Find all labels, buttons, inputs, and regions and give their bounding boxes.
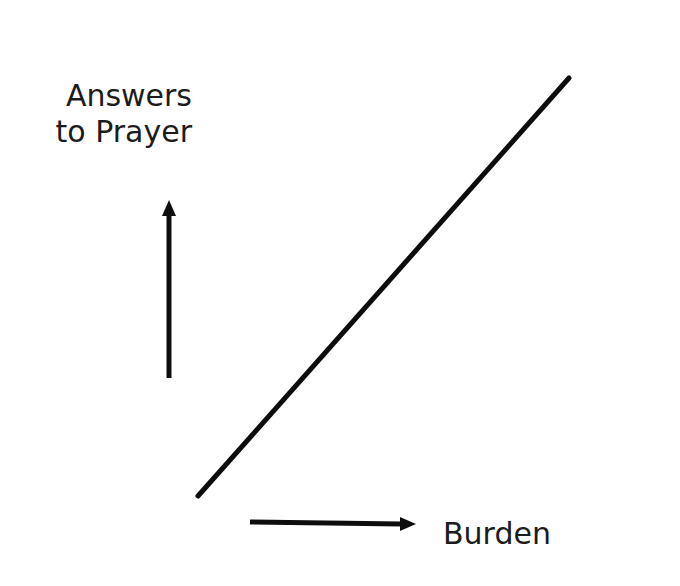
y-axis-label: Answers to Prayer: [56, 78, 192, 150]
direct-relationship-diagram: Answers to Prayer Burden: [0, 0, 680, 586]
trend-line: [198, 78, 569, 496]
up-arrow-icon: [162, 200, 176, 378]
right-arrow-icon: [250, 517, 416, 531]
y-axis-label-line-1: Answers: [56, 78, 192, 114]
x-axis-label: Burden: [443, 516, 551, 552]
y-axis-label-line-2: to Prayer: [56, 114, 192, 150]
